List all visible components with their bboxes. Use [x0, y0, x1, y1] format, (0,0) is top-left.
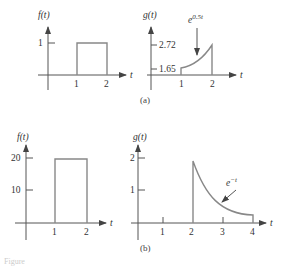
y-axis-label: f(t): [17, 132, 29, 143]
x-tick-label: 2: [189, 227, 194, 237]
y-tick-label: 2: [130, 153, 135, 163]
x-tick-label: 2: [84, 227, 89, 237]
x-tick-label: 1: [179, 79, 184, 89]
x-tick-label: 4: [250, 227, 255, 237]
y-tick-label: 20: [11, 153, 21, 163]
annotation-arrow: [222, 190, 236, 202]
y-axis-label: g(t): [143, 10, 157, 21]
exp-decay-curve: [193, 161, 253, 223]
x-axis-label: t: [130, 70, 133, 80]
plot-b-f: f(t) t 20 10 1 2: [11, 132, 113, 240]
x-tick-label: 1: [160, 227, 165, 237]
figure-canvas: f(t) t 1 1 2 g(t) t 2.72 1.65 1 2 e0.5t …: [0, 0, 291, 266]
annotation-label: e−t: [226, 176, 238, 188]
y-tick-label: 2.72: [159, 40, 176, 50]
rect-pulse: [55, 159, 87, 223]
x-axis-label: t: [110, 218, 113, 228]
plot-a-g: g(t) t 2.72 1.65 1 2 e0.5t: [143, 10, 243, 90]
annotation-label: e0.5t: [188, 13, 204, 25]
caption-a: (a): [140, 95, 150, 105]
footer-caption: Figure: [4, 257, 25, 266]
x-tick-label: 2: [104, 79, 109, 89]
y-tick-label: 1: [38, 38, 43, 48]
y-tick-label: 10: [11, 185, 21, 195]
y-tick-label: 1.65: [159, 64, 176, 74]
plot-b-g: g(t) t 2 1 1 2 3 4 e−t: [130, 132, 273, 240]
caption-b: (b): [140, 243, 151, 253]
x-tick-label: 1: [74, 79, 79, 89]
x-axis-label: t: [270, 218, 273, 228]
x-tick-label: 3: [220, 227, 225, 237]
x-axis-label: t: [240, 70, 243, 80]
y-tick-label: 1: [130, 185, 135, 195]
x-tick-label: 1: [52, 227, 57, 237]
rect-pulse: [77, 43, 107, 75]
y-axis-label: g(t): [133, 132, 147, 143]
x-tick-label: 2: [210, 79, 215, 89]
plot-a-f: f(t) t 1 1 2: [38, 10, 133, 90]
y-axis-label: f(t): [38, 10, 50, 21]
